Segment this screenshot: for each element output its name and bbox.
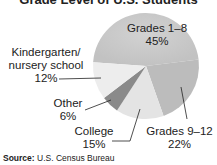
label-kindergarten: Kindergarten/ nursery school 12% <box>4 46 88 85</box>
label-other: Other 6% <box>50 97 86 123</box>
source-note: Source: U.S. Census Bureau <box>3 153 115 163</box>
label-grades-9-12: Grades 9–12 22% <box>142 125 217 151</box>
leader-line-other <box>85 100 111 110</box>
label-college: College 15% <box>68 125 120 151</box>
label-grades-1-8: Grades 1–8 45% <box>117 22 197 48</box>
